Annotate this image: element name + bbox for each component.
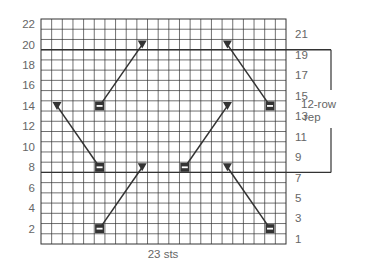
row-label: 17	[295, 69, 308, 81]
purl-dash-icon	[180, 163, 189, 172]
row-label: 21	[295, 28, 308, 40]
row-label: 8	[29, 161, 35, 173]
row-label: 10	[22, 141, 35, 153]
left-row-labels: 246810121416182022	[22, 18, 35, 235]
row-label: 11	[295, 131, 307, 143]
purl-dash-icon	[95, 101, 104, 110]
row-label: 6	[29, 182, 35, 194]
purl-dash-icon	[266, 101, 275, 110]
row-label: 16	[22, 79, 35, 91]
row-label: 22	[22, 18, 35, 30]
row-label: 18	[22, 59, 35, 71]
row-label: 5	[295, 192, 301, 204]
row-label: 1	[295, 233, 301, 245]
row-label: 7	[295, 172, 301, 184]
repeat-label-line1: 12-row	[301, 98, 337, 110]
row-label: 14	[22, 100, 35, 112]
purl-dash-icon	[266, 224, 275, 233]
repeat-label-line2: rep	[304, 111, 321, 123]
row-label: 12	[22, 120, 35, 132]
row-label: 3	[295, 212, 301, 224]
row-label: 4	[29, 202, 36, 214]
purl-dash-icon	[95, 163, 104, 172]
stitch-count-label: 23 sts	[148, 248, 179, 260]
row-label: 9	[295, 151, 301, 163]
knitting-chart: 246810121416182022 13579111315171921 12-…	[0, 0, 371, 276]
chart-grid	[41, 19, 286, 244]
row-label: 2	[29, 223, 35, 235]
right-row-labels: 13579111315171921	[295, 28, 308, 245]
purl-dash-icon	[95, 224, 104, 233]
row-label: 19	[295, 49, 308, 61]
row-label: 20	[22, 39, 35, 51]
